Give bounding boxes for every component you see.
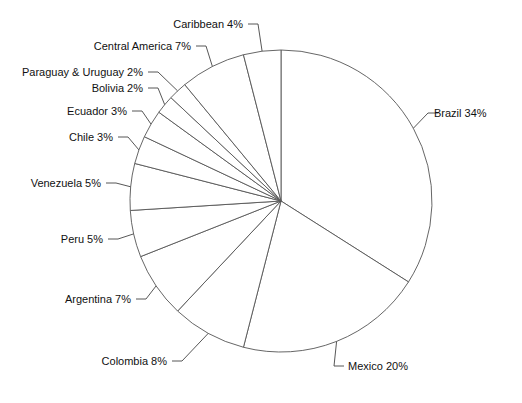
leader-line-bolivia	[148, 88, 165, 105]
pie-label-paraguay-uruguay: Paraguay & Uruguay 2%	[22, 66, 143, 78]
pie-label-venezuela: Venezuela 5%	[31, 177, 102, 189]
leader-line-colombia	[172, 333, 208, 361]
pie-label-peru: Peru 5%	[61, 233, 103, 245]
leader-line-ecuador	[132, 111, 151, 124]
leader-line-venezuela	[106, 183, 131, 187]
leader-line-mexico	[334, 341, 344, 366]
pie-label-brazil: Brazil 34%	[434, 107, 487, 119]
leader-line-peru	[108, 234, 134, 239]
pie-label-bolivia: Bolivia 2%	[92, 82, 144, 94]
pie-label-caribbean: Caribbean 4%	[173, 18, 243, 30]
pie-label-argentina: Argentina 7%	[65, 293, 131, 305]
leader-line-argentina	[136, 286, 156, 299]
pie-label-ecuador: Ecuador 3%	[67, 105, 127, 117]
pie-label-central-america: Central America 7%	[94, 40, 191, 52]
pie-label-chile: Chile 3%	[69, 131, 113, 143]
pie-chart-figure: Brazil 34% Mexico 20% Colombia 8% Argent…	[0, 0, 522, 403]
pie-label-colombia: Colombia 8%	[102, 355, 168, 367]
leader-line-central-america	[196, 46, 212, 67]
leader-line-caribbean	[248, 24, 262, 51]
leader-line-chile	[118, 137, 139, 150]
pie-label-mexico: Mexico 20%	[348, 360, 408, 372]
pie-chart-canvas: Brazil 34% Mexico 20% Colombia 8% Argent…	[0, 0, 522, 403]
pie-slices-group	[130, 50, 432, 352]
